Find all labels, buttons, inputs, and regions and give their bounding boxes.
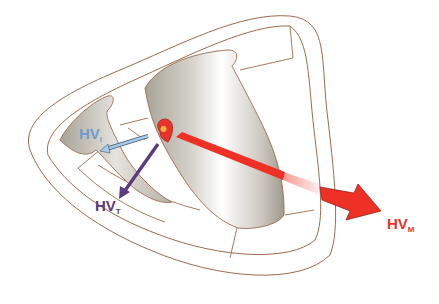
label-hv-i: HVI [79, 126, 102, 144]
label-hv-t-main: HV [95, 197, 116, 214]
label-hv-m: HVM [387, 216, 415, 234]
label-hv-t: HVT [95, 198, 121, 216]
heart-vector-diagram: HVI HVT HVM [0, 0, 439, 304]
label-hv-t-sub: T [116, 207, 121, 216]
label-hv-m-main: HV [387, 215, 408, 232]
heart-illustration [0, 0, 439, 304]
label-hv-i-sub: I [100, 135, 102, 144]
label-hv-m-sub: M [408, 225, 415, 234]
label-hv-i-main: HV [79, 125, 100, 142]
